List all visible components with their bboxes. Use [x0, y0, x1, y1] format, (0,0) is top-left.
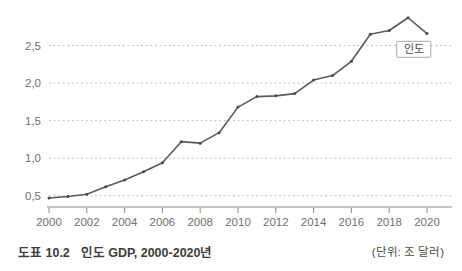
x-axis-tick-label: 2004: [112, 216, 138, 228]
data-point-marker: [293, 92, 296, 95]
x-axis-tick-label: 2010: [225, 216, 251, 228]
figure-number: 도표 10.2: [18, 242, 70, 261]
x-axis-tick-label: 2000: [36, 216, 62, 228]
y-axis-tick-label: 2,0: [25, 77, 41, 89]
x-axis-tick-label: 2012: [263, 216, 289, 228]
unit-note: (단위: 조 달러): [372, 243, 444, 259]
y-axis-tick-label: 1,0: [25, 152, 41, 164]
y-axis-tick-label: 2,5: [25, 40, 41, 52]
figure-container: 0,51,01,52,02,52000200220042006200820102…: [0, 0, 462, 271]
x-axis-tick-label: 2006: [150, 216, 176, 228]
x-axis-tick-label: 2002: [74, 216, 100, 228]
data-point-marker: [48, 196, 51, 199]
data-point-marker: [426, 32, 429, 35]
y-axis-tick-label: 1,5: [25, 115, 41, 127]
data-point-marker: [388, 29, 391, 32]
x-axis-tick-label: 2014: [301, 216, 327, 228]
x-axis-tick-label: 2020: [414, 216, 440, 228]
chart-plot-area: 0,51,01,52,02,52000200220042006200820102…: [0, 0, 462, 232]
data-point-marker: [350, 60, 353, 63]
data-point-marker: [274, 94, 277, 97]
figure-title: 인도 GDP, 2000-2020년: [81, 242, 213, 261]
data-point-marker: [180, 140, 183, 143]
x-axis-tick-label: 2016: [339, 216, 365, 228]
data-point-marker: [312, 79, 315, 82]
y-axis-tick-label: 0,5: [25, 190, 41, 202]
line-chart-svg: 0,51,01,52,02,52000200220042006200820102…: [0, 0, 462, 232]
data-point-marker: [199, 142, 202, 145]
x-axis-tick-label: 2008: [187, 216, 213, 228]
caption-row: 도표 10.2 인도 GDP, 2000-2020년 (단위: 조 달러): [0, 238, 462, 264]
x-axis-tick-label: 2018: [376, 216, 402, 228]
data-point-marker: [66, 195, 69, 198]
data-point-marker: [255, 95, 258, 98]
data-point-marker: [85, 193, 88, 196]
data-point-marker: [142, 170, 145, 173]
data-point-marker: [237, 106, 240, 109]
data-point-marker: [161, 161, 164, 164]
legend-series-label: 인도: [404, 43, 424, 55]
caption-left: 도표 10.2 인도 GDP, 2000-2020년: [18, 242, 213, 261]
data-point-marker: [407, 16, 410, 19]
data-point-marker: [369, 33, 372, 36]
data-point-marker: [218, 131, 221, 134]
data-point-marker: [104, 185, 107, 188]
data-point-marker: [331, 74, 334, 77]
data-point-marker: [123, 178, 126, 181]
